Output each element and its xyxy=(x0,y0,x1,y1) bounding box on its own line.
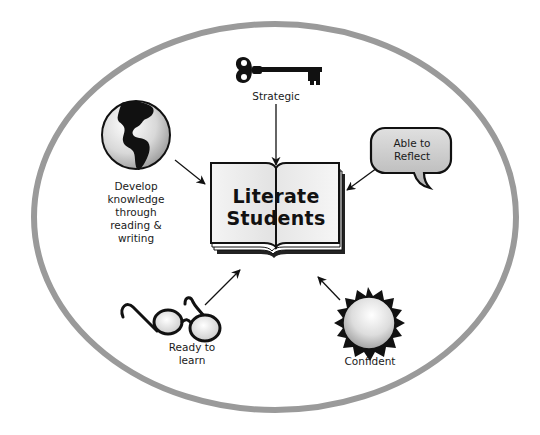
label-strategic: Strategic xyxy=(236,90,316,103)
arrow-knowledge xyxy=(175,160,205,184)
label-knowledge-line-4: reading & xyxy=(96,219,176,232)
label-ready-line-1: Ready to xyxy=(157,341,227,354)
label-confident-line-1: Confident xyxy=(330,355,410,368)
arrow-ready xyxy=(205,270,240,305)
label-ready-line-2: learn xyxy=(157,354,227,367)
label-knowledge-line-1: Develop xyxy=(96,180,176,193)
label-confident: Confident xyxy=(330,355,410,368)
key-icon xyxy=(236,57,322,85)
label-able-to-reflect: Able to Reflect xyxy=(382,137,442,163)
arrow-confident xyxy=(318,277,340,300)
label-knowledge-line-3: through xyxy=(96,206,176,219)
label-knowledge-line-2: knowledge xyxy=(96,193,176,206)
globe-icon xyxy=(102,101,170,170)
label-reflect-line-2: Reflect xyxy=(382,150,442,163)
sun-icon xyxy=(334,287,405,361)
label-knowledge-line-5: writing xyxy=(96,232,176,245)
label-strategic-line-1: Strategic xyxy=(236,90,316,103)
diagram-canvas: Literate Students Strategic Develop know… xyxy=(0,0,540,435)
label-ready-to-learn: Ready to learn xyxy=(157,341,227,367)
center-title: Literate Students xyxy=(213,185,339,229)
center-title-line-2: Students xyxy=(213,207,339,229)
arrow-reflect xyxy=(347,168,377,190)
center-title-line-1: Literate xyxy=(213,185,339,207)
label-reflect-line-1: Able to xyxy=(382,137,442,150)
label-develop-knowledge: Develop knowledge through reading & writ… xyxy=(96,180,176,245)
